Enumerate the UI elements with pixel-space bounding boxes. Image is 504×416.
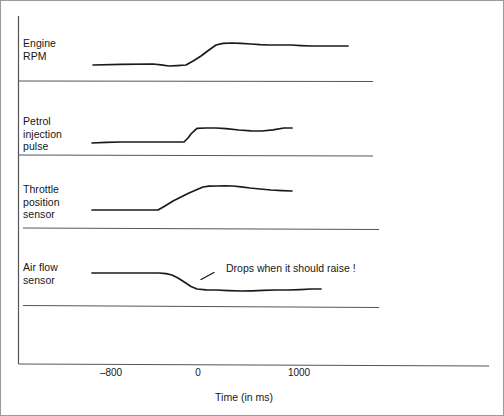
trace-label-line-2: position [23,196,60,208]
trace-label-engine-rpm: EngineRPM [23,37,56,62]
trace-air-flow-sensor [92,273,321,291]
chart-canvas [1,1,504,416]
x-axis-line [19,364,490,366]
panel-separator-3 [23,228,379,230]
panel-separator-1 [19,81,373,82]
trace-label-throttle-position-sensor: Throttlepositionsensor [23,183,60,221]
trace-label-petrol-injection-pulse: Petrolinjectionpulse [23,115,62,153]
x-tick-label-1000: 1000 [288,367,310,378]
annotation-pointer-icon [201,273,214,280]
trace-label-line-2: sensor [23,274,55,286]
annotation-drops-when-it-should-raise: Drops when it should raise ! [226,262,356,274]
signal-trace-figure: EngineRPM Petrolinjectionpulse Throttlep… [0,0,504,416]
trace-label-line-3: sensor [23,208,55,220]
panel-separator-2 [19,155,373,156]
trace-engine-rpm [93,43,348,66]
x-tick-label-minus-800: –800 [100,367,122,378]
trace-petrol-injection-pulse [92,128,292,143]
trace-label-line-3: pulse [23,140,48,152]
panel-separator-4 [23,306,379,308]
x-axis-title: Time (in ms) [215,391,273,403]
trace-throttle-position-sensor [92,186,292,210]
trace-label-line-2: RPM [23,50,46,62]
x-tick-label-0: 0 [195,367,201,378]
trace-label-line-1: Engine [23,37,56,49]
trace-label-line-1: Petrol [23,115,51,127]
trace-label-line-1: Air flow [23,261,58,273]
trace-label-air-flow-sensor: Air flowsensor [23,261,58,286]
trace-label-line-2: injection [23,128,62,140]
trace-label-line-1: Throttle [23,183,59,195]
